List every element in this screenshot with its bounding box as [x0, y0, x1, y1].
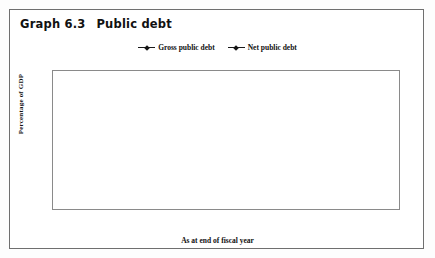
page-title: Graph 6.3Public debt	[20, 17, 172, 31]
x-axis-label: As at end of fiscal year	[0, 236, 435, 245]
plot-area: 0153045607590 60626466687072747678808284…	[52, 70, 400, 210]
chart-page: Graph 6.3Public debt Gross public debt N…	[0, 0, 435, 258]
chart-legend: Gross public debt Net public debt	[0, 43, 435, 52]
graph-number: Graph 6.3	[20, 17, 85, 31]
plot-frame	[52, 70, 400, 210]
legend-item-net: Net public debt	[228, 43, 297, 52]
legend-line-marker-icon	[228, 44, 245, 51]
legend-label-gross: Gross public debt	[158, 43, 215, 52]
legend-line-marker-icon	[138, 44, 155, 51]
y-axis-label: Percentage of GDP	[17, 59, 25, 149]
legend-item-gross: Gross public debt	[138, 43, 215, 52]
graph-title-text: Public debt	[96, 17, 172, 31]
legend-label-net: Net public debt	[248, 43, 297, 52]
